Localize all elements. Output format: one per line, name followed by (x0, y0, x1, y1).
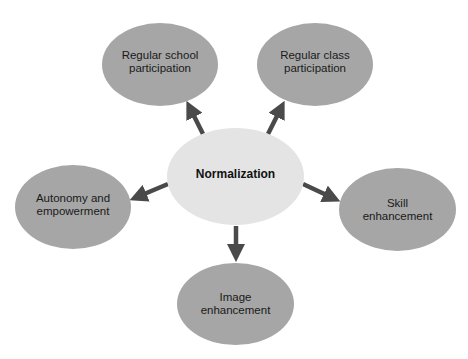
node-image-enhancement: Image enhancement (177, 263, 294, 345)
node-skill-enhancement: Skill enhancement (339, 168, 456, 251)
arrow-to-regular-school-participation (190, 108, 203, 134)
center-label: Normalization (196, 168, 275, 181)
arrow-to-regular-class-participation (268, 108, 281, 134)
node-label: Image enhancement (201, 291, 271, 317)
arrow-to-skill-enhancement (303, 184, 333, 198)
node-label: Regular school participation (122, 49, 199, 75)
node-label: Autonomy and empowerment (36, 192, 110, 218)
node-regular-class-participation: Regular class participation (257, 23, 373, 106)
node-regular-school-participation: Regular school participation (102, 23, 218, 106)
node-label: Regular class participation (280, 49, 350, 75)
node-normalization: Normalization (167, 128, 304, 225)
node-autonomy-and-empowerment: Autonomy and empowerment (15, 165, 131, 249)
node-label: Skill enhancement (363, 197, 433, 223)
arrow-to-autonomy-and-empowerment (137, 184, 168, 197)
